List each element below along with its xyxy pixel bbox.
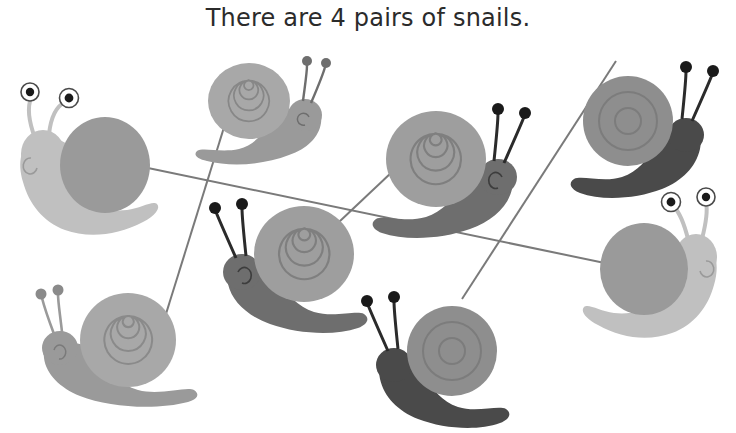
snail-eye-stalk-left (58, 294, 62, 332)
snail-eye-stalk-right (368, 305, 388, 351)
snail-shell (407, 306, 497, 396)
snail-canvas (0, 0, 736, 433)
snail-eye-right (60, 89, 79, 108)
snail-eye-left (388, 291, 400, 303)
snail-eye-left (662, 193, 681, 212)
snail-top-middle[interactable] (195, 56, 331, 164)
snail-eye-right (209, 202, 221, 214)
snail-eye-left (236, 198, 248, 210)
snail-shell (386, 111, 486, 207)
snail-eye-stalk-left (394, 301, 398, 349)
snail-eye-left (302, 56, 312, 66)
snail-eye-stalk-right (216, 212, 236, 258)
snail-eye-stalk-left (494, 113, 498, 161)
snail-eye-stalk-left (29, 98, 35, 138)
connection-lines (100, 61, 648, 346)
snail-eye-stalk-right (504, 117, 524, 163)
snail-eye-stalk-right (702, 203, 707, 239)
snail-eye-stalk-right (42, 298, 54, 334)
snail-shell (583, 76, 673, 166)
snail-top-right[interactable] (571, 61, 719, 198)
snail-head (42, 331, 78, 365)
snail-right-middle[interactable] (583, 188, 717, 338)
snail-head (376, 348, 412, 382)
snail-head (288, 99, 322, 131)
snail-eye-stalk-right (311, 67, 325, 103)
snail-mid-right[interactable] (373, 103, 531, 238)
snail-head (668, 118, 704, 152)
snail-shell (60, 117, 150, 213)
snail-head (21, 130, 65, 178)
snail-eye-left (53, 285, 64, 296)
snail-eye-left (492, 103, 504, 115)
snail-eye-stalk-right (49, 102, 65, 134)
snail-eye-stalk-left (674, 207, 688, 239)
snail-eye-left (21, 83, 39, 101)
snail-shell (600, 223, 688, 315)
snail-eye-left (680, 61, 692, 73)
snail-eye-stalk-left (303, 65, 307, 101)
snail-eye-right (519, 107, 531, 119)
snail-top-left[interactable] (20, 83, 158, 235)
snail-illustration-area (0, 0, 736, 433)
snail-eye-stalk-left (242, 208, 246, 256)
snail-bottom-left[interactable] (36, 285, 198, 407)
snail-eye-right (321, 58, 331, 68)
snail-eye-right (697, 188, 715, 206)
worksheet-page: There are 4 pairs of snails. (0, 0, 736, 433)
snail-eye-stalk-left (682, 71, 686, 119)
snail-shell (208, 63, 290, 139)
snail-eye-right (36, 289, 47, 300)
snail-eye-stalk-right (692, 75, 712, 121)
snail-eye-right (707, 65, 719, 77)
snail-shell (80, 293, 176, 387)
snail-eye-right (361, 295, 373, 307)
snail-shell (254, 206, 354, 302)
snail-bottom-middle[interactable] (361, 291, 509, 428)
connection-line-light-pair[interactable] (100, 158, 648, 272)
